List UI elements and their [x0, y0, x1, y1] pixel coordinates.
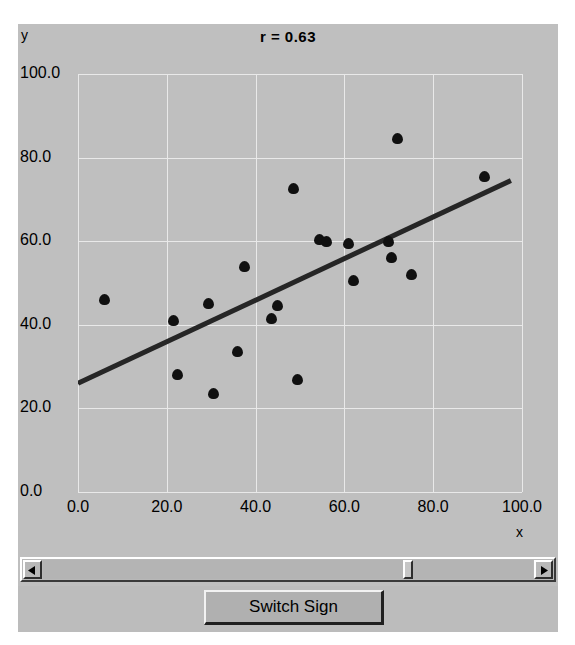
data-point[interactable] [208, 388, 219, 399]
switch-sign-button[interactable]: Switch Sign [204, 590, 384, 625]
data-point[interactable] [406, 269, 417, 280]
data-point[interactable] [348, 275, 359, 286]
data-point[interactable] [386, 252, 397, 263]
applet-window: r = 0.63 y x 0.020.040.060.080.0100.0 0.… [18, 24, 558, 632]
y-tick-label: 60.0 [20, 231, 51, 249]
x-tick-label: 0.0 [67, 498, 89, 516]
y-axis-title: y [21, 27, 28, 43]
data-point[interactable] [292, 374, 303, 385]
x-tick-label: 60.0 [329, 498, 360, 516]
x-tick-label: 80.0 [418, 498, 449, 516]
correlation-scrollbar[interactable] [20, 557, 556, 582]
data-point[interactable] [239, 261, 250, 272]
regression-line [78, 74, 522, 492]
scrollbar-thumb[interactable] [403, 560, 413, 579]
correlation-title: r = 0.63 [18, 28, 558, 45]
plot-area[interactable] [78, 74, 522, 492]
x-tick-label: 100.0 [502, 498, 542, 516]
y-tick-label: 100.0 [20, 64, 60, 82]
scrollbar-right-arrow-button[interactable] [534, 560, 553, 579]
gridline-vertical [522, 74, 523, 492]
scrollbar-track[interactable] [43, 560, 533, 579]
scatterplot-panel[interactable]: r = 0.63 y x 0.020.040.060.080.0100.0 0.… [18, 24, 558, 553]
triangle-right-icon [539, 566, 548, 575]
data-point[interactable] [392, 133, 403, 144]
triangle-left-icon [28, 566, 37, 575]
data-point[interactable] [383, 236, 394, 247]
button-bar: Switch Sign [18, 586, 558, 632]
scrollbar-left-arrow-button[interactable] [23, 560, 42, 579]
y-tick-label: 80.0 [20, 148, 51, 166]
y-axis-tick-labels: 0.020.040.060.080.0100.0 [18, 74, 76, 492]
x-tick-label: 40.0 [240, 498, 271, 516]
data-point[interactable] [321, 236, 332, 247]
gridline-horizontal [78, 492, 522, 493]
data-point[interactable] [288, 183, 299, 194]
y-tick-label: 20.0 [20, 398, 51, 416]
x-tick-label: 20.0 [151, 498, 182, 516]
data-point[interactable] [168, 315, 179, 326]
data-point[interactable] [479, 171, 490, 182]
data-point[interactable] [266, 313, 277, 324]
x-axis-title: x [516, 524, 523, 540]
y-tick-label: 0.0 [20, 482, 42, 500]
data-point[interactable] [99, 294, 110, 305]
y-tick-label: 40.0 [20, 315, 51, 333]
data-point[interactable] [343, 238, 354, 249]
